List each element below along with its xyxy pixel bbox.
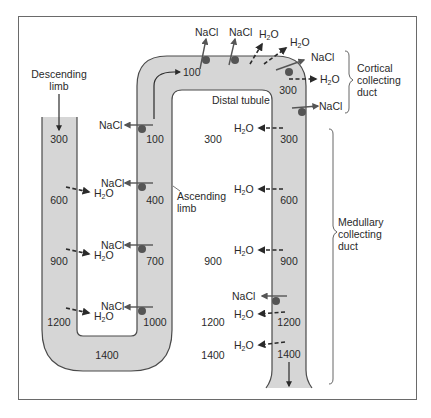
svg-text:Cortical: Cortical	[357, 62, 393, 74]
svg-text:NaCl: NaCl	[101, 239, 124, 251]
svg-text:limb: limb	[49, 80, 68, 92]
distal-tubule-label: Distal tubule	[212, 94, 270, 106]
asc-value-400: 400	[146, 194, 164, 206]
duct-value-300: 300	[280, 133, 298, 145]
cortical-duct-value: 300	[279, 84, 297, 96]
svg-text:NaCl: NaCl	[319, 100, 342, 112]
desc-value-1200: 1200	[47, 316, 71, 328]
svg-text:NaCl: NaCl	[229, 26, 252, 38]
svg-text:Medullary: Medullary	[338, 216, 384, 228]
duct-value-1200: 1200	[277, 316, 301, 328]
desc-value-300: 300	[50, 133, 68, 145]
svg-text:NaCl: NaCl	[232, 290, 255, 302]
interstitium-300: 300	[204, 133, 222, 145]
distal-start-value: 100	[183, 66, 201, 78]
desc-value-600: 600	[50, 194, 68, 206]
asc-value-700: 700	[146, 255, 164, 267]
loop-bottom-value: 1400	[95, 349, 119, 361]
svg-text:limb: limb	[177, 202, 196, 214]
asc-value-1000: 1000	[143, 316, 167, 328]
svg-text:collecting: collecting	[338, 228, 382, 240]
interstitium-1400: 1400	[201, 349, 225, 361]
svg-text:NaCl: NaCl	[99, 119, 122, 131]
nephron-diagram: Descending limb 300 600 900 1200 1400 H2…	[0, 0, 431, 418]
duct-value-900: 900	[280, 255, 298, 267]
svg-text:duct: duct	[357, 86, 377, 98]
svg-text:Ascending: Ascending	[177, 190, 226, 202]
duct-value-1400: 1400	[277, 348, 301, 360]
svg-text:NaCl: NaCl	[101, 300, 124, 312]
svg-text:NaCl: NaCl	[101, 177, 124, 189]
svg-text:duct: duct	[338, 240, 358, 252]
desc-value-900: 900	[50, 255, 68, 267]
interstitium-1200: 1200	[201, 316, 225, 328]
interstitium-900: 900	[204, 255, 222, 267]
svg-text:NaCl: NaCl	[195, 26, 218, 38]
svg-text:collecting: collecting	[357, 74, 401, 86]
svg-text:Descending: Descending	[31, 68, 87, 80]
svg-text:NaCl: NaCl	[311, 51, 334, 63]
duct-value-600: 600	[280, 194, 298, 206]
asc-value-100: 100	[146, 133, 164, 145]
